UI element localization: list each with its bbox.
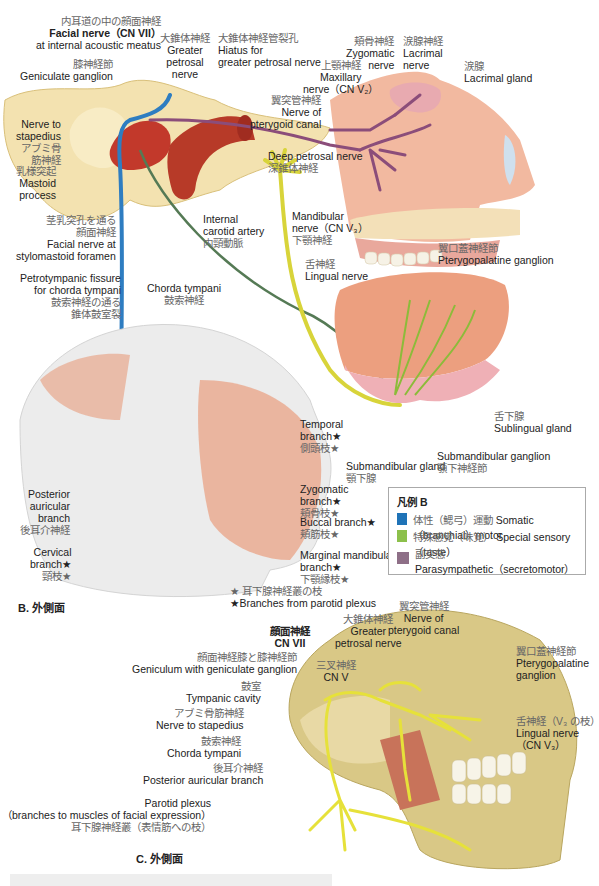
label-zygomatic-nerve: 頬骨神経 Zygomatic nerve bbox=[346, 35, 394, 71]
label-internal-carotid: Internal carotid artery 内頸動脈 bbox=[203, 213, 264, 249]
label-marginal-mandibular: Marginal mandibular branch★ 下顎縁枝★ bbox=[300, 549, 395, 585]
label-lacrimal-nerve: 涙腺神経 Lacrimal nerve bbox=[403, 35, 443, 71]
label-stylomastoid: 茎乳突孔を通る 顔面神経 Facial nerve at stylomastoi… bbox=[16, 214, 116, 262]
label-pterygoid-canal: 翼突管神経 Nerve of pterygoid canal bbox=[250, 94, 321, 130]
figure-c-caption: C. 外側面 bbox=[136, 850, 183, 866]
label-c-parotid: Parotid plexus （branches to muscles of f… bbox=[2, 797, 211, 833]
bottom-gray-bar bbox=[10, 874, 332, 886]
label-zygomatic-branch: Zygomatic branch★ 頬骨枝★ bbox=[300, 483, 348, 519]
legend-title: 凡例 B bbox=[397, 494, 428, 509]
label-greater-petrosal: 大錐体神経 Greater petrosal nerve bbox=[160, 32, 210, 80]
swatch-green bbox=[397, 530, 407, 542]
label-submandibular-ganglion: Submandibular ganglion 顎下神経節 bbox=[437, 450, 550, 474]
label-c-nerve-to-stapedius: アブミ骨筋神経 Nerve to stapedius bbox=[156, 707, 244, 731]
legend-item-parasympathetic: 副交感Parasympathetic（secretomotor） bbox=[397, 546, 574, 576]
label-lacrimal-gland: 涙腺 Lacrimal gland bbox=[464, 60, 532, 84]
label-mandibular: Mandibular nerve（CN V₃） 下顎神経 bbox=[292, 210, 368, 246]
label-lingual: 舌神経 Lingual nerve bbox=[305, 258, 368, 282]
footnote: ★ 耳下腺神経叢の枝 ★Branches from parotid plexus bbox=[230, 585, 376, 609]
label-deep-petrosal: Deep petrosal nerve 深錐体神経 bbox=[268, 150, 363, 174]
label-c-trigeminal: 三叉神経 CN V bbox=[316, 659, 356, 683]
label-pterygopalatine: 翼口蓋神経節 Pterygopalatine ganglion bbox=[438, 242, 554, 266]
label-nerve-to-stapedius: Nerve to stapedius アブミ骨 筋神経 bbox=[16, 118, 61, 166]
label-chorda-tympani: Chorda tympani 鼓索神経 bbox=[147, 282, 221, 306]
label-cervical-branch: Cervical branch★ 頸枝★ bbox=[30, 546, 72, 582]
label-c-tympanic-cavity: 鼓室 Tympanic cavity bbox=[186, 680, 261, 704]
label-buccal-branch: Buccal branch★ 頬筋枝★ bbox=[300, 516, 376, 540]
legend-box: 凡例 B 体性（鰓弓）運動 Somatic（branchial）motor 特殊… bbox=[388, 487, 586, 575]
label-mastoid: 乳様突起 Mastoid process bbox=[16, 165, 56, 201]
label-c-facial-cn7: 顔面神経 CN VII bbox=[270, 625, 310, 649]
label-c-posterior-auricular: 後耳介神経 Posterior auricular branch bbox=[143, 762, 263, 786]
label-c-pterygopalatine: 翼口蓋神経節 Pterygopalatine ganglion bbox=[516, 645, 589, 681]
figure-b-caption: B. 外側面 bbox=[18, 599, 65, 615]
label-sublingual-gland: 舌下腺 Sublingual gland bbox=[494, 410, 572, 434]
swatch-purple bbox=[397, 552, 409, 564]
label-c-geniculum: 顔面神経膝と膝神経節 Geniculum with geniculate gan… bbox=[132, 651, 297, 675]
label-temporal-branch: Temporal branch★ 側頭枝★ bbox=[300, 418, 343, 454]
label-geniculate-ganglion: 膝神経節 Geniculate ganglion bbox=[20, 58, 113, 82]
label-c-pterygoid-canal: 翼突管神経 Nerve of pterygoid canal bbox=[388, 600, 459, 636]
swatch-blue bbox=[397, 513, 407, 525]
label-petrotympanic: Petrotympanic fissure for chorda tympani… bbox=[20, 272, 121, 320]
label-posterior-auricular: Posterior auricular branch 後耳介神経 bbox=[20, 488, 70, 536]
label-facial-nerve-iam: 内耳道の中の顔面神経 Facial nerve（CN VII） at inter… bbox=[36, 15, 161, 51]
label-c-lingual: 舌神経（V₃ の枝） Lingual nerve （CN V₃） bbox=[516, 715, 599, 751]
label-submandibular-gland: Submandibular gland 顎下腺 bbox=[346, 460, 445, 484]
label-c-chorda-tympani: 鼓索神経 Chorda tympani bbox=[167, 735, 241, 759]
